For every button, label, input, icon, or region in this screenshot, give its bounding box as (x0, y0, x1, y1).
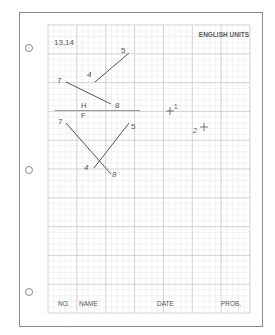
title-block-date: DATE (157, 300, 175, 307)
title-block-prob: PROB. (221, 300, 241, 307)
top-label-5: 5 (121, 46, 126, 55)
point-2-label: 2 (192, 127, 197, 134)
front-label-4: 4 (84, 163, 89, 172)
front-label-7: 7 (58, 117, 63, 126)
front-label-5: 5 (131, 122, 136, 131)
fold-label-h: H (81, 101, 86, 110)
point-1-label: 1 (174, 103, 178, 110)
title-block-no: NO. (58, 300, 70, 307)
fold-label-f: F (81, 111, 86, 120)
top-label-8: 8 (115, 101, 120, 110)
point-2-marker (200, 123, 208, 131)
top-label-4: 4 (87, 70, 92, 79)
units-label: ENGLISH UNITS (199, 31, 250, 38)
front-label-8: 8 (112, 170, 117, 179)
title-block-name: NAME (79, 300, 98, 307)
grid-canvas: 13,14 ENGLISH UNITS 5 4 7 8 H F 7 5 4 8 … (0, 0, 275, 335)
major-grid (48, 25, 250, 313)
problem-numbers: 13,14 (54, 38, 75, 47)
top-label-7: 7 (57, 76, 62, 85)
point-1-marker (166, 107, 174, 115)
